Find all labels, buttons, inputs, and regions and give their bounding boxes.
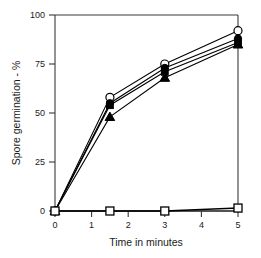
- data-series-layer: [50, 27, 243, 215]
- y-tick-label-0: 0: [40, 206, 45, 216]
- y-tick-label-100: 100: [30, 10, 45, 20]
- y-tick-label-50: 50: [35, 108, 45, 118]
- axis-frame: [55, 15, 238, 211]
- y-tick-label-25: 25: [35, 157, 45, 167]
- y-tick-label-75: 75: [35, 59, 45, 69]
- x-tick-label-3: 3: [162, 220, 167, 230]
- y-axis-ticks: [49, 15, 55, 211]
- data-point-square-open: [51, 207, 59, 215]
- data-point-square-open: [106, 207, 114, 215]
- series-line-open-circle: [55, 31, 238, 211]
- data-point-triangle-filled: [105, 112, 115, 120]
- series-line-filled-triangle: [55, 44, 238, 211]
- x-tick-label-2: 2: [126, 220, 131, 230]
- series-filled-circle: [51, 35, 241, 215]
- chart-figure: 100 75 50 25 0 0 1 2 3 4 5 Time in minut…: [0, 0, 261, 258]
- x-tick-label-0: 0: [52, 220, 57, 230]
- data-point-circle-open: [234, 27, 242, 35]
- data-point-square-open: [234, 204, 242, 212]
- series-filled-triangle: [50, 40, 243, 215]
- chart-plot-area: 100 75 50 25 0 0 1 2 3 4 5 Time in minut…: [0, 0, 261, 258]
- series-open-circle: [51, 27, 242, 215]
- x-axis-title: Time in minutes: [109, 236, 183, 248]
- x-tick-label-5: 5: [235, 220, 240, 230]
- x-axis-ticks: [55, 211, 238, 217]
- y-axis-title: Spore germination - %: [10, 61, 22, 165]
- series-filled-square: [52, 39, 242, 214]
- series-open-square-control: [51, 204, 242, 215]
- series-line-filled-square: [55, 42, 238, 211]
- x-tick-label-4: 4: [199, 220, 204, 230]
- data-point-square-filled: [107, 102, 114, 109]
- data-point-square-open: [161, 207, 169, 215]
- x-tick-label-1: 1: [89, 220, 94, 230]
- series-line-filled-circle: [55, 39, 238, 211]
